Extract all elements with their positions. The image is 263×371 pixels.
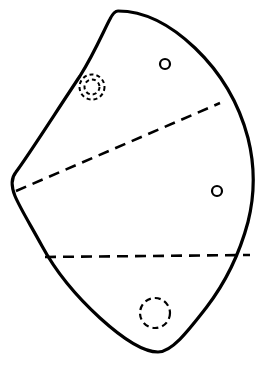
- figure-container: [0, 0, 263, 371]
- technical-line-drawing: [0, 0, 263, 371]
